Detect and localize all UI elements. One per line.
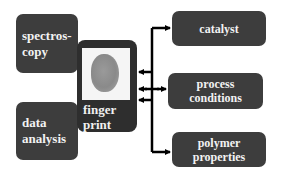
fingerprint-box: finger print: [77, 40, 137, 132]
data-analysis-label-line-2: analysis: [22, 131, 78, 147]
polymer-properties-box: polymer properties: [172, 132, 266, 167]
process-conditions-label-line-2: conditions: [189, 91, 242, 105]
catalyst-label: catalyst: [199, 22, 238, 36]
process-conditions-box: process conditions: [168, 73, 263, 109]
data-analysis-box: data analysis: [16, 102, 78, 160]
process-conditions-label-line-1: process: [197, 77, 235, 91]
fingerprint-image: [82, 48, 130, 100]
fingerprint-label-line-2: print: [83, 117, 116, 132]
polymer-properties-label-line-1: polymer: [198, 136, 241, 150]
catalyst-box: catalyst: [172, 11, 266, 46]
spectroscopy-label-line-1: spectros-: [22, 28, 78, 44]
fingerprint-label: finger print: [83, 102, 116, 132]
polymer-properties-label-line-2: properties: [193, 150, 245, 164]
spectroscopy-label-line-2: copy: [22, 44, 78, 60]
data-analysis-label-line-1: data: [22, 115, 78, 131]
spectroscopy-box: spectros- copy: [16, 14, 78, 73]
fingerprint-label-line-1: finger: [83, 102, 116, 117]
fingerprint-icon: [91, 54, 119, 92]
